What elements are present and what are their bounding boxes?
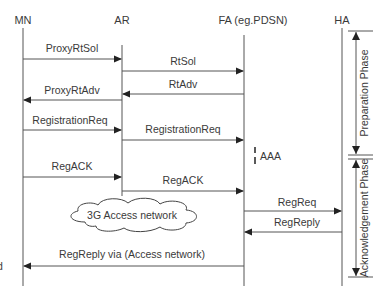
message-rtadv: RtAdv bbox=[123, 78, 244, 94]
message-regreply-via-access: RegReply via (Access network) bbox=[24, 248, 244, 266]
arrow-down-icon bbox=[352, 146, 360, 154]
entity-fa-label: FA (eg.PDSN) bbox=[218, 14, 287, 26]
entity-ar-label: AR bbox=[114, 14, 129, 26]
aaa-marker: AAA bbox=[255, 147, 281, 164]
cloud-label: 3G Access network bbox=[87, 209, 178, 221]
message-proxyrtsol: ProxyRtSol bbox=[23, 42, 121, 59]
message-regack-ar-fa: RegACK bbox=[122, 174, 243, 191]
message-proxyrtadv: ProxyRtAdv bbox=[24, 84, 122, 100]
acknowledgement-phase-label: Acknowledgement Phase bbox=[358, 159, 370, 278]
message-regreq: RegReq bbox=[244, 196, 341, 211]
entity-ha-label: HA bbox=[334, 14, 350, 26]
message-label: RegistrationReq bbox=[32, 114, 107, 126]
message-label: RegReq bbox=[278, 196, 317, 208]
acknowledgement-phase-bracket: Acknowledgement Phase bbox=[348, 159, 373, 278]
message-rtsol: RtSol bbox=[122, 55, 243, 71]
edge-text-fragment: d bbox=[0, 260, 3, 272]
message-regack-mn-ar: RegACK bbox=[23, 160, 121, 177]
message-registrationreq-ar-fa: RegistrationReq bbox=[122, 123, 243, 140]
message-label: ProxyRtSol bbox=[46, 42, 99, 54]
message-label: RegACK bbox=[163, 174, 204, 186]
arrow-up-icon bbox=[352, 32, 360, 40]
entity-mn-label: MN bbox=[14, 14, 31, 26]
message-label: RegACK bbox=[52, 160, 93, 172]
message-regreply: RegReply bbox=[245, 216, 342, 232]
preparation-phase-label: Preparation Phase bbox=[358, 49, 370, 136]
preparation-phase-bracket: Preparation Phase bbox=[348, 31, 373, 155]
message-label: RtSol bbox=[170, 55, 196, 67]
message-label: RegReply bbox=[274, 216, 321, 228]
access-network-cloud: 3G Access network bbox=[71, 198, 197, 231]
message-label: RtAdv bbox=[169, 78, 198, 90]
message-label: RegReply via (Access network) bbox=[59, 248, 205, 260]
message-label: RegistrationReq bbox=[145, 123, 220, 135]
message-label: ProxyRtAdv bbox=[44, 84, 100, 96]
aaa-label: AAA bbox=[260, 150, 281, 162]
sequence-diagram: MN AR FA (eg.PDSN) HA ProxyRtSol RtSol R… bbox=[0, 0, 387, 304]
message-registrationreq-mn-ar: RegistrationReq bbox=[23, 114, 121, 130]
